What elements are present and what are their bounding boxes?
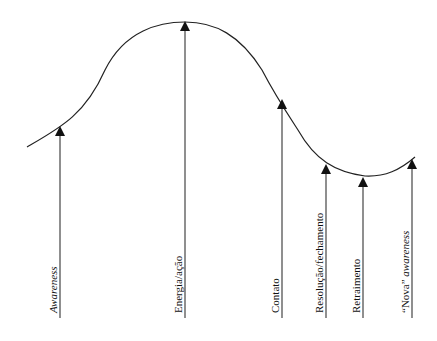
label-retraimento: Retraimento xyxy=(350,258,362,313)
label-awareness: Awareness xyxy=(47,266,59,314)
stage-arrows xyxy=(55,21,417,318)
experience-curve xyxy=(27,22,415,176)
gestalt-cycle-diagram: Awareness Energia/ação Contato Resolução… xyxy=(0,0,437,341)
label-resolucao-fechamento: Resolução/fechamento xyxy=(313,212,325,313)
label-nova-awareness: “Nova” awareness xyxy=(399,231,411,313)
label-nova-suffix: awareness xyxy=(399,231,411,277)
label-nova-prefix: “Nova” xyxy=(399,279,411,313)
label-energia-acao: Energia/ação xyxy=(172,255,184,313)
label-contato: Contato xyxy=(269,278,281,313)
